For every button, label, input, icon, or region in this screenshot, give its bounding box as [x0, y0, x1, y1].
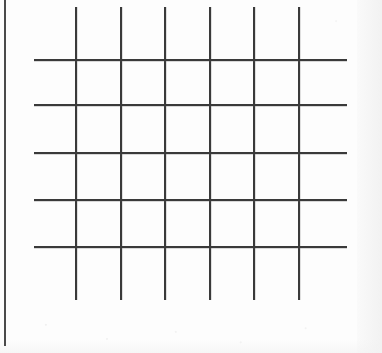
grid-lattice: [0, 0, 382, 353]
grid-line-horizontal-1: [34, 59, 347, 61]
figure-canvas: no text content: [0, 0, 382, 353]
grid-line-horizontal-3: [34, 152, 347, 154]
figure-caption: [0, 305, 382, 353]
grid-line-horizontal-2: [34, 104, 347, 106]
grid-line-horizontal-4: [34, 199, 347, 201]
grid-line-horizontal-5: [34, 246, 347, 248]
